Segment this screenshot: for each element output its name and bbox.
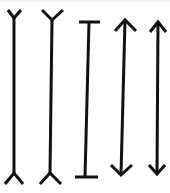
shaft <box>50 20 52 173</box>
bottom-fork-icon <box>5 173 23 184</box>
top-fork-icon <box>8 10 21 18</box>
forked-line-1 <box>5 10 23 184</box>
forked-line-2 <box>40 10 63 184</box>
i-beam-line <box>75 22 100 177</box>
bottom-fork-icon <box>40 173 61 184</box>
double-arrow-1 <box>111 20 136 175</box>
shaft <box>121 20 125 175</box>
shaft <box>85 22 89 177</box>
double-arrow-2 <box>149 22 166 174</box>
shaft <box>157 22 158 174</box>
top-fork-icon <box>42 10 63 20</box>
muller-lyer-diagram <box>0 0 170 193</box>
